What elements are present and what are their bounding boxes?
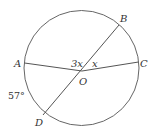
- angle-label-BOC: x: [92, 58, 98, 69]
- point-label-A: A: [13, 58, 21, 69]
- point-label-B: B: [119, 13, 127, 24]
- radius-OC: [82, 62, 139, 71]
- diameter-BD: [43, 25, 119, 115]
- circle-diagram: A B C D O 3x x 57°: [0, 0, 153, 140]
- angle-label-AOB: 3x: [71, 58, 83, 69]
- point-label-C: C: [140, 58, 148, 69]
- arc-label-AD: 57°: [8, 90, 25, 101]
- point-label-O: O: [79, 76, 87, 87]
- point-label-D: D: [34, 117, 43, 128]
